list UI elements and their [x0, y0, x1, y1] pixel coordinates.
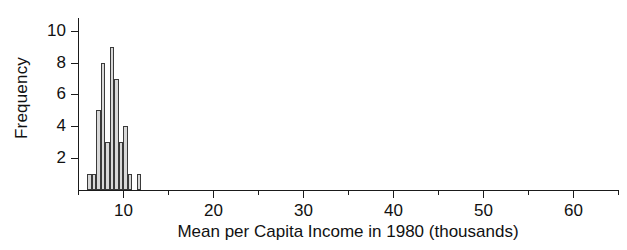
x-axis-minor-tick [258, 190, 259, 195]
y-axis-tick: 10 [71, 31, 78, 32]
y-axis-title: Frequency [0, 0, 44, 195]
y-axis-tick-label: 6 [57, 84, 66, 103]
x-axis-minor-tick [168, 190, 169, 195]
x-axis-tick-label: 20 [204, 201, 223, 220]
y-axis-tick-label: 2 [57, 148, 66, 167]
y-axis-tick: 4 [71, 126, 78, 127]
x-axis-minor-tick [528, 190, 529, 195]
x-axis-minor-tick [78, 190, 79, 195]
x-axis-tick-label: 40 [384, 201, 403, 220]
histogram-bar [137, 174, 142, 190]
x-axis-title-text: Mean per Capita Income in 1980 (thousand… [177, 222, 518, 241]
x-axis-tick-label: 30 [294, 201, 313, 220]
x-axis-minor-tick [438, 190, 439, 195]
y-axis-tick: 6 [71, 94, 78, 95]
x-axis-major-tick: 50 [483, 190, 484, 198]
x-axis-tick-label: 10 [114, 201, 133, 220]
y-axis-tick: 8 [71, 63, 78, 64]
y-axis-line [78, 18, 79, 190]
y-axis-tick-label: 8 [57, 53, 66, 72]
plot-area: 246810 102030405060 [78, 18, 618, 190]
x-axis-title: Mean per Capita Income in 1980 (thousand… [78, 222, 618, 242]
x-axis-major-tick: 30 [303, 190, 304, 198]
x-axis-major-tick: 60 [573, 190, 574, 198]
x-axis-tick-label: 60 [564, 201, 583, 220]
x-axis-major-tick: 20 [213, 190, 214, 198]
x-axis-major-tick: 10 [123, 190, 124, 198]
x-axis-major-tick: 40 [393, 190, 394, 198]
x-axis-minor-tick [348, 190, 349, 195]
y-axis-tick-label: 4 [57, 116, 66, 135]
histogram-bar [128, 174, 133, 190]
y-axis-title-text: Frequency [12, 56, 32, 138]
x-axis-minor-tick [618, 190, 619, 195]
y-axis-tick-label: 10 [47, 21, 66, 40]
histogram-figure: Frequency 246810 102030405060 Mean per C… [0, 0, 627, 250]
x-axis-tick-label: 50 [474, 201, 493, 220]
y-axis-tick: 2 [71, 158, 78, 159]
